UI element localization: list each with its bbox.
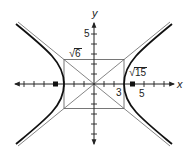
x-axis-label: x (177, 79, 183, 90)
radicand-15: 15 (134, 67, 147, 78)
y-tick-label-5: 5 (84, 29, 90, 39)
y-axis-label: y (92, 8, 98, 19)
hyperbola-graph (0, 0, 193, 163)
focus-right (130, 82, 135, 87)
x-tick-label-5: 5 (139, 89, 145, 99)
radicand-6: 6 (74, 48, 82, 59)
c-value-label: √15 (129, 67, 147, 78)
focus-left (53, 82, 58, 87)
b-value-label: √6 (69, 48, 82, 59)
x-tick-label-3: 3 (116, 88, 122, 98)
